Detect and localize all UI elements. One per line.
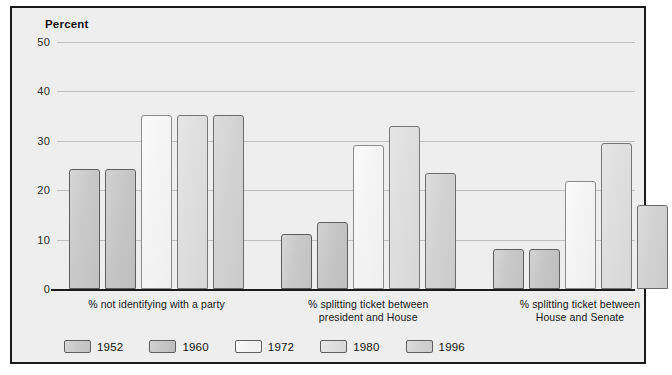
legend-label-1952: 1952 [97, 341, 123, 353]
bar-1952-group1 [69, 169, 100, 289]
legend-item-1972[interactable]: 1972 [235, 340, 294, 353]
bar-1996-group1 [213, 115, 244, 289]
bar-1996-group2 [425, 173, 456, 289]
bar-1960-group1 [105, 169, 136, 289]
category-label-line: president and House [251, 311, 486, 324]
legend-item-1996[interactable]: 1996 [406, 340, 465, 353]
bar-1996-group3 [637, 205, 668, 289]
bar-1972-group1 [141, 115, 172, 289]
category-label-2: % splitting ticket betweenpresident and … [251, 298, 486, 324]
y-tick-label-30: 30 [37, 135, 50, 147]
category-label-3: % splitting ticket betweenHouse and Sena… [463, 298, 672, 324]
legend-swatch-1960 [149, 340, 176, 353]
legend-swatch-1952 [64, 340, 91, 353]
bar-1960-group3 [529, 249, 560, 289]
category-label-line: House and Senate [463, 311, 672, 324]
bar-1972-group3 [565, 181, 596, 289]
y-axis-title: Percent [45, 18, 89, 30]
legend-label-1960: 1960 [182, 341, 208, 353]
bar-1980-group2 [389, 126, 420, 289]
bar-1980-group3 [601, 143, 632, 289]
x-axis-line [51, 289, 635, 291]
category-label-line: % splitting ticket between [463, 298, 672, 311]
category-label-line: % splitting ticket between [251, 298, 486, 311]
legend-swatch-1996 [406, 340, 433, 353]
legend-label-1996: 1996 [439, 341, 465, 353]
legend-label-1980: 1980 [353, 341, 379, 353]
legend-item-1960[interactable]: 1960 [149, 340, 208, 353]
legend-swatch-1972 [235, 340, 262, 353]
bar-1952-group2 [281, 234, 312, 289]
chart-frame: Percent 01020304050 % not identifying wi… [10, 6, 646, 364]
legend-swatch-1980 [320, 340, 347, 353]
legend-item-1952[interactable]: 1952 [64, 340, 123, 353]
gridline-40 [57, 91, 635, 92]
bar-1972-group2 [353, 145, 384, 289]
category-label-1: % not identifying with a party [39, 298, 274, 311]
y-tick-label-10: 10 [37, 234, 50, 246]
plot-area: 01020304050 [57, 42, 635, 289]
category-label-line: % not identifying with a party [39, 298, 274, 311]
y-tick-label-50: 50 [37, 36, 50, 48]
y-tick-label-0: 0 [44, 283, 50, 295]
bar-1980-group1 [177, 115, 208, 289]
legend-label-1972: 1972 [268, 341, 294, 353]
gridline-50 [57, 42, 635, 43]
bar-1952-group3 [493, 249, 524, 290]
legend-item-1980[interactable]: 1980 [320, 340, 379, 353]
y-tick-label-20: 20 [37, 184, 50, 196]
y-tick-label-40: 40 [37, 85, 50, 97]
chart-legend: 19521960197219801996 [64, 340, 465, 353]
bar-1960-group2 [317, 222, 348, 289]
